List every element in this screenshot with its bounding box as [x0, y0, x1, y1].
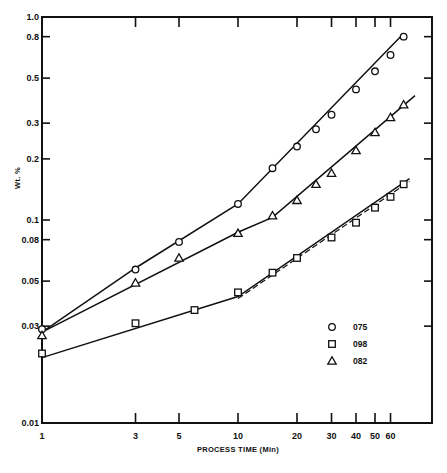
data-point-098 — [387, 194, 394, 201]
y-axis-title: Wt. % — [13, 167, 22, 189]
data-point-098 — [400, 181, 407, 188]
data-point-075 — [176, 239, 183, 246]
y-tick-label: 0.03 — [21, 321, 39, 331]
dashed-fit-line-098 — [238, 181, 410, 298]
data-point-082 — [352, 146, 360, 153]
data-point-075 — [353, 86, 360, 93]
y-tick-label: 0.1 — [26, 215, 39, 225]
data-point-082 — [399, 100, 407, 107]
data-point-098 — [132, 320, 139, 327]
fit-lines — [42, 33, 415, 357]
data-point-098 — [235, 289, 242, 296]
x-tick-label: 20 — [292, 431, 302, 441]
legend-label: 098 — [353, 339, 367, 349]
data-point-075 — [235, 201, 242, 208]
data-points — [38, 33, 408, 356]
y-tick-label: 0.5 — [26, 73, 39, 83]
y-axis: 0.010.030.050.080.10.20.30.50.81.0 — [21, 12, 432, 428]
x-tick-label: 30 — [327, 431, 337, 441]
data-point-082 — [38, 331, 46, 338]
data-point-098 — [269, 269, 276, 276]
data-point-075 — [372, 68, 379, 75]
square-marker-icon — [329, 341, 336, 348]
data-point-075 — [328, 111, 335, 118]
y-tick-label: 0.01 — [21, 418, 39, 428]
data-point-098 — [191, 307, 198, 314]
x-axis-title: PROCESS TIME (Min) — [197, 445, 279, 454]
data-point-075 — [294, 143, 301, 150]
x-tick-label: 10 — [233, 431, 243, 441]
y-tick-label: 1.0 — [26, 12, 39, 22]
chart: 135102030405060 0.010.030.050.080.10.20.… — [0, 0, 447, 473]
x-tick-label: 50 — [370, 431, 380, 441]
triangle-marker-icon — [328, 357, 336, 364]
data-point-082 — [175, 254, 183, 261]
fit-line-075 — [42, 33, 404, 332]
data-point-082 — [312, 180, 320, 187]
x-tick-label: 1 — [39, 431, 44, 441]
data-point-075 — [387, 52, 394, 59]
data-point-075 — [132, 266, 139, 273]
legend-label: 082 — [353, 356, 367, 366]
x-tick-label: 3 — [133, 431, 138, 441]
data-point-075 — [313, 126, 320, 133]
legend: 075098082 — [328, 322, 368, 366]
x-tick-label: 5 — [176, 431, 181, 441]
x-tick-label: 60 — [386, 431, 396, 441]
y-tick-label: 0.3 — [26, 118, 39, 128]
circle-marker-icon — [329, 324, 336, 331]
data-point-098 — [372, 204, 379, 211]
data-point-098 — [294, 255, 301, 262]
data-point-075 — [269, 165, 276, 172]
x-axis: 135102030405060 — [39, 17, 395, 441]
data-point-082 — [234, 229, 242, 236]
plot-border — [42, 17, 432, 423]
plot-frame — [42, 17, 432, 423]
data-point-098 — [328, 234, 335, 241]
x-tick-label: 40 — [351, 431, 361, 441]
y-tick-label: 0.8 — [26, 32, 39, 42]
y-tick-label: 0.08 — [21, 235, 39, 245]
data-point-098 — [39, 350, 46, 357]
legend-label: 075 — [353, 322, 367, 332]
data-point-075 — [400, 33, 407, 40]
data-point-098 — [353, 219, 360, 226]
y-tick-label: 0.05 — [21, 276, 39, 286]
y-tick-label: 0.2 — [26, 154, 39, 164]
